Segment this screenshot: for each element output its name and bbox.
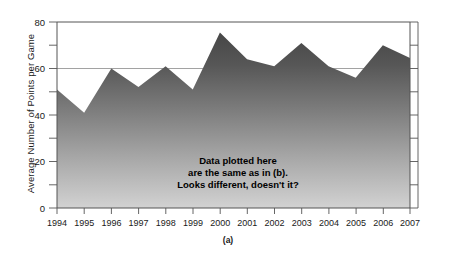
y-axis-ticks-right: [410, 22, 418, 208]
x-tick-label: 1998: [156, 218, 176, 228]
x-axis-tick-labels: 1994 1995 1996 1997 1998 1999 2000 2001 …: [47, 218, 420, 228]
annotation-line-2: are the same as in (b).: [188, 167, 288, 178]
x-tick-label: 1995: [74, 218, 94, 228]
y-tick-label: 0: [40, 203, 45, 214]
x-tick-label: 1997: [129, 218, 149, 228]
y-tick-label: 60: [34, 63, 45, 74]
area-chart: 0 20 40 60 80 1994 1995 1996: [0, 0, 456, 255]
y-axis-ticks: [49, 22, 57, 208]
x-tick-label: 1994: [47, 218, 67, 228]
x-tick-label: 2007: [400, 218, 420, 228]
annotation-line-1: Data plotted here: [199, 155, 277, 166]
y-tick-label: 40: [34, 110, 45, 121]
figure-panel: Average Number of Points per Game: [0, 0, 456, 255]
x-tick-label: 1999: [183, 218, 203, 228]
y-tick-label: 20: [34, 156, 45, 167]
x-tick-label: 2000: [210, 218, 230, 228]
x-tick-label: 2005: [346, 218, 366, 228]
x-tick-label: 2004: [319, 218, 339, 228]
x-tick-label: 2006: [373, 218, 393, 228]
x-tick-label: 1996: [101, 218, 121, 228]
y-axis-tick-labels: 0 20 40 60 80: [34, 17, 45, 214]
y-tick-label: 80: [34, 17, 45, 28]
x-tick-label: 2003: [292, 218, 312, 228]
annotation-line-3: Looks different, doesn't it?: [177, 179, 299, 190]
x-tick-label: 2002: [264, 218, 284, 228]
figure-caption: (a): [223, 235, 234, 245]
x-axis-ticks: [57, 208, 410, 214]
x-tick-label: 2001: [237, 218, 257, 228]
